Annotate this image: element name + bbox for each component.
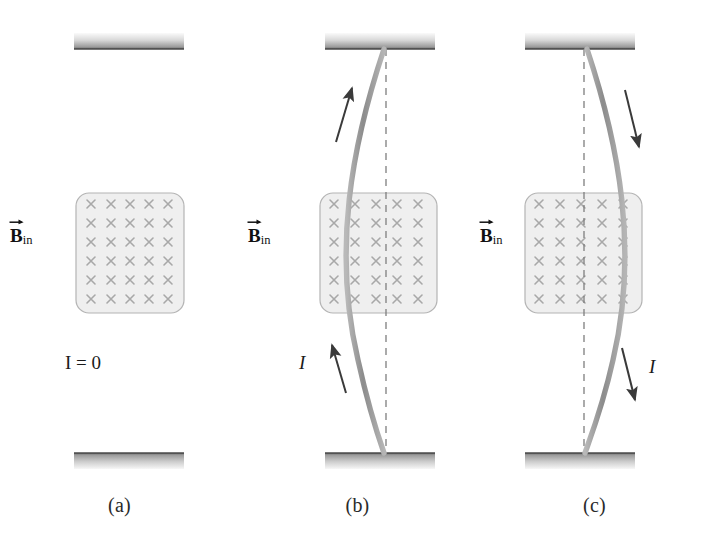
current-label-c: I (649, 356, 655, 378)
panel-b-diagram (240, 0, 475, 490)
bfield-symbol: B (480, 226, 493, 245)
current-label-a-text: I = 0 (65, 352, 101, 373)
current-label-b-text: I (299, 352, 305, 373)
bfield-symbol-text: B (480, 225, 493, 246)
physics-figure: B in I = 0 (a) (0, 0, 715, 545)
bfield-symbol-text: B (248, 225, 261, 246)
lower-current-arrow (332, 345, 346, 393)
current-label-a: I = 0 (65, 352, 101, 374)
upper-current-arrow (625, 90, 639, 147)
upper-current-arrow (336, 88, 352, 142)
caption-b: (b) (240, 494, 475, 517)
magnetic-field-region (320, 193, 437, 313)
caption-c: (c) (477, 494, 712, 517)
lower-current-arrow (622, 348, 635, 400)
caption-a: (a) (2, 494, 237, 517)
bottom-support-bar (525, 453, 635, 469)
top-support-bar (74, 33, 184, 49)
panel-a: B in I = 0 (a) (2, 0, 237, 545)
bfield-subscript: in (493, 233, 503, 247)
panel-c-diagram (477, 0, 712, 490)
current-label-c-text: I (649, 356, 655, 377)
bfield-label-c: B in (480, 226, 503, 247)
bottom-support-bar (74, 453, 184, 469)
bfield-subscript: in (23, 233, 33, 247)
bottom-support-bar (325, 453, 435, 469)
panel-a-diagram (2, 0, 237, 490)
bfield-symbol: B (10, 226, 23, 245)
bfield-subscript: in (261, 233, 271, 247)
bfield-symbol: B (248, 226, 261, 245)
bfield-symbol-text: B (10, 225, 23, 246)
current-label-b: I (299, 352, 305, 374)
panel-b: B in I (b) (240, 0, 475, 545)
panel-c: B in I (c) (477, 0, 712, 545)
top-support-bar (525, 33, 635, 49)
bfield-label-b: B in (248, 226, 271, 247)
top-support-bar (325, 33, 435, 49)
bfield-label-a: B in (10, 226, 33, 247)
